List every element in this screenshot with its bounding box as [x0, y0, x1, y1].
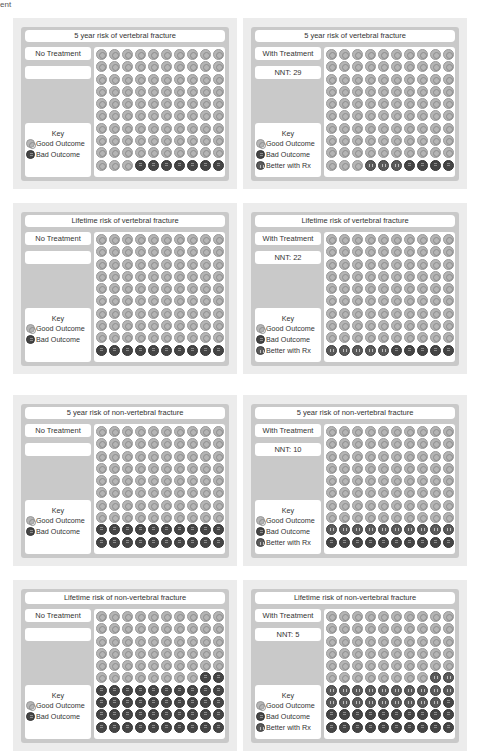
good-outcome-icon — [122, 110, 133, 121]
good-outcome-icon — [443, 271, 454, 282]
good-outcome-icon — [391, 308, 402, 319]
good-outcome-icon — [430, 234, 441, 245]
good-outcome-icon — [365, 426, 376, 437]
good-outcome-icon — [200, 463, 211, 474]
good-outcome-icon — [148, 438, 159, 449]
good-outcome-icon — [339, 438, 350, 449]
good-outcome-icon — [213, 283, 224, 294]
good-outcome-icon — [161, 332, 172, 343]
good-outcome-icon — [187, 636, 198, 647]
good-outcome-icon — [352, 463, 363, 474]
good-outcome-icon — [174, 475, 185, 486]
good-outcome-icon — [96, 234, 107, 245]
good-outcome-icon — [174, 234, 185, 245]
good-outcome-icon — [391, 295, 402, 306]
good-outcome-icon — [109, 74, 120, 85]
good-outcome-icon — [443, 74, 454, 85]
panel-title: Lifetime risk of vertebral fracture — [255, 215, 455, 227]
nnt-label: NNT: 22 — [255, 251, 321, 264]
key-title: Key — [25, 129, 91, 138]
good-outcome-icon — [135, 512, 146, 523]
bad-outcome-icon — [122, 524, 133, 535]
good-outcome-icon — [187, 234, 198, 245]
good-outcome-icon — [200, 283, 211, 294]
good-outcome-icon — [122, 259, 133, 270]
good-outcome-icon — [213, 426, 224, 437]
good-outcome-icon — [365, 463, 376, 474]
good-outcome-icon — [96, 271, 107, 282]
better-with-rx-icon — [326, 345, 337, 356]
good-outcome-icon — [391, 475, 402, 486]
better-with-rx-icon — [378, 345, 389, 356]
good-outcome-icon — [326, 308, 337, 319]
good-outcome-icon — [135, 86, 146, 97]
good-outcome-icon — [122, 86, 133, 97]
good-outcome-icon — [213, 660, 224, 671]
key-good-label: Good Outcome — [36, 324, 85, 333]
good-outcome-icon — [326, 61, 337, 72]
good-outcome-icon — [443, 86, 454, 97]
good-outcome-icon — [417, 295, 428, 306]
good-outcome-icon — [378, 135, 389, 146]
good-outcome-icon — [352, 308, 363, 319]
good-outcome-icon — [404, 147, 415, 158]
good-outcome-icon — [148, 500, 159, 511]
good-outcome-icon — [443, 426, 454, 437]
good-outcome-icon — [391, 271, 402, 282]
key-bad: Bad Outcome — [26, 149, 91, 160]
good-outcome-icon — [161, 123, 172, 134]
good-outcome-icon — [404, 487, 415, 498]
good-outcome-icon — [161, 98, 172, 109]
bad-outcome-icon — [200, 160, 211, 171]
risk-panel: 5 year risk of vertebral fracture No Tre… — [13, 18, 237, 189]
good-outcome-icon — [430, 283, 441, 294]
better-with-rx-icon — [391, 524, 402, 535]
good-outcome-icon — [404, 660, 415, 671]
good-outcome-icon — [96, 283, 107, 294]
bad-outcome-icon — [430, 345, 441, 356]
good-outcome-icon — [109, 636, 120, 647]
good-outcome-icon — [187, 463, 198, 474]
good-outcome-icon — [96, 438, 107, 449]
bad-outcome-icon — [200, 685, 211, 696]
nnt-label: NNT: 10 — [255, 443, 321, 456]
nnt-label — [25, 66, 91, 79]
good-outcome-icon — [148, 636, 159, 647]
good-outcome-icon — [109, 475, 120, 486]
bad-outcome-icon — [187, 524, 198, 535]
good-outcome-icon — [339, 49, 350, 60]
good-outcome-icon — [326, 74, 337, 85]
good-outcome-icon — [430, 648, 441, 659]
good-outcome-icon — [161, 623, 172, 634]
good-outcome-icon — [187, 271, 198, 282]
bad-outcome-icon — [122, 685, 133, 696]
good-outcome-icon — [213, 623, 224, 634]
good-outcome-icon — [404, 295, 415, 306]
good-outcome-icon — [430, 320, 441, 331]
good-outcome-icon — [135, 636, 146, 647]
bad-outcome-icon — [256, 335, 265, 344]
good-outcome-icon — [161, 308, 172, 319]
bad-outcome-icon — [404, 345, 415, 356]
bad-outcome-icon — [161, 537, 172, 548]
good-outcome-icon — [404, 234, 415, 245]
good-outcome-icon — [187, 123, 198, 134]
panel-frame: 5 year risk of non-vertebral fracture No… — [21, 404, 229, 558]
good-outcome-icon — [391, 623, 402, 634]
good-outcome-icon — [109, 98, 120, 109]
good-outcome-icon — [430, 74, 441, 85]
good-outcome-icon — [391, 283, 402, 294]
key-bad-label: Bad Outcome — [266, 150, 310, 159]
good-outcome-icon — [122, 611, 133, 622]
key-good: Good Outcome — [26, 700, 91, 711]
bad-outcome-icon — [148, 697, 159, 708]
bad-outcome-icon — [122, 697, 133, 708]
good-outcome-icon — [122, 487, 133, 498]
better-with-rx-icon — [404, 685, 415, 696]
better-with-rx-icon — [365, 160, 376, 171]
better-with-rx-icon — [443, 672, 454, 683]
good-outcome-icon — [174, 451, 185, 462]
good-outcome-icon — [391, 672, 402, 683]
good-outcome-icon — [352, 332, 363, 343]
good-outcome-icon — [404, 636, 415, 647]
